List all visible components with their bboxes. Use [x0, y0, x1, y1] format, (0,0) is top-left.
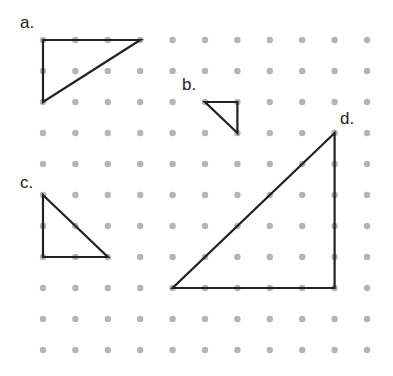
grid-dot — [137, 285, 143, 291]
grid-dot — [105, 99, 111, 105]
grid-dot — [40, 130, 46, 136]
grid-dot — [202, 223, 208, 229]
grid-dot — [169, 68, 175, 74]
grid-dot — [267, 130, 273, 136]
grid-dot — [169, 99, 175, 105]
grid-dot — [72, 68, 78, 74]
grid-dot — [364, 192, 370, 198]
grid-dot — [267, 161, 273, 167]
grid-dot — [331, 37, 337, 43]
grid-dot — [202, 161, 208, 167]
grid-dot — [234, 254, 240, 260]
grid-dot — [105, 68, 111, 74]
grid-dot — [169, 130, 175, 136]
grid-dot — [105, 161, 111, 167]
grid-dot — [105, 223, 111, 229]
grid-dot — [299, 68, 305, 74]
grid-dot — [137, 99, 143, 105]
grid-dot — [331, 68, 337, 74]
label-b: b. — [182, 75, 196, 94]
grid-dot — [364, 347, 370, 353]
label-a: a. — [20, 13, 34, 32]
grid-dot — [72, 99, 78, 105]
grid-dot — [169, 192, 175, 198]
grid-dot — [331, 347, 337, 353]
grid-dot — [137, 130, 143, 136]
grid-dot — [202, 130, 208, 136]
grid-dot — [267, 37, 273, 43]
grid-dot — [267, 68, 273, 74]
grid-dot — [72, 347, 78, 353]
grid-dot — [105, 192, 111, 198]
grid-dot — [364, 285, 370, 291]
grid-dot — [72, 192, 78, 198]
grid-dot — [40, 161, 46, 167]
grid-dot — [105, 130, 111, 136]
grid-dot — [364, 254, 370, 260]
grid-dot — [364, 37, 370, 43]
grid-dot — [137, 347, 143, 353]
grid-dot — [202, 347, 208, 353]
dot-grid — [40, 37, 370, 353]
grid-dot — [40, 316, 46, 322]
grid-dot — [137, 68, 143, 74]
grid-dot — [234, 347, 240, 353]
grid-dot — [267, 254, 273, 260]
grid-dot — [202, 192, 208, 198]
grid-dot — [72, 316, 78, 322]
grid-dot — [267, 99, 273, 105]
grid-dot — [234, 161, 240, 167]
grid-dot — [267, 316, 273, 322]
grid-dot — [234, 37, 240, 43]
grid-dot — [331, 316, 337, 322]
grid-dot — [202, 37, 208, 43]
triangle-b — [205, 102, 237, 133]
grid-dot — [364, 68, 370, 74]
grid-dot — [299, 192, 305, 198]
grid-dot — [105, 316, 111, 322]
grid-dot — [202, 68, 208, 74]
grid-dot — [234, 316, 240, 322]
grid-dot — [72, 161, 78, 167]
grid-dot — [169, 161, 175, 167]
grid-dot — [169, 347, 175, 353]
grid-dot — [234, 192, 240, 198]
grid-dot — [137, 161, 143, 167]
grid-dot — [137, 254, 143, 260]
grid-dot — [137, 223, 143, 229]
grid-dot — [72, 130, 78, 136]
grid-dot — [40, 347, 46, 353]
grid-dot — [364, 130, 370, 136]
grid-dot — [234, 68, 240, 74]
grid-dot — [299, 316, 305, 322]
grid-dot — [299, 347, 305, 353]
grid-dot — [364, 223, 370, 229]
grid-dot — [137, 316, 143, 322]
grid-dot — [364, 161, 370, 167]
grid-dot — [169, 254, 175, 260]
grid-dot — [105, 285, 111, 291]
grid-dot — [331, 99, 337, 105]
grid-dot — [40, 285, 46, 291]
triangle-d — [173, 133, 335, 288]
triangle-c — [43, 195, 108, 257]
grid-dot — [364, 316, 370, 322]
grid-dot — [299, 254, 305, 260]
grid-dot — [202, 316, 208, 322]
dot-grid-diagram: a.b.c.d. — [0, 0, 393, 376]
grid-dot — [299, 37, 305, 43]
grid-dot — [299, 223, 305, 229]
grid-dot — [72, 285, 78, 291]
grid-dot — [267, 347, 273, 353]
grid-dot — [299, 99, 305, 105]
grid-dot — [299, 130, 305, 136]
label-d: d. — [340, 109, 354, 128]
grid-dot — [105, 347, 111, 353]
grid-dot — [364, 99, 370, 105]
grid-dot — [137, 192, 143, 198]
grid-dot — [169, 223, 175, 229]
label-c: c. — [20, 173, 33, 192]
grid-dot — [267, 223, 273, 229]
triangle-a — [43, 40, 140, 102]
grid-dot — [169, 316, 175, 322]
